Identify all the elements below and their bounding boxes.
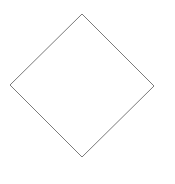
diagram-canvas	[0, 0, 175, 184]
